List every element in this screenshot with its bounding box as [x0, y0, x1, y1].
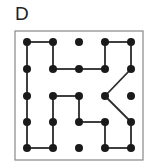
grid-dot — [75, 65, 83, 73]
grid-dot — [127, 118, 135, 126]
dot-grid-diagram — [0, 0, 148, 168]
grid-dot — [127, 65, 135, 73]
grid-dot — [101, 38, 109, 46]
grid-dot — [23, 38, 31, 46]
path-edge — [105, 96, 131, 122]
grid-dot — [75, 144, 83, 152]
grid-dot — [127, 38, 135, 46]
grid-dot — [23, 144, 31, 152]
grid-dot — [23, 118, 31, 126]
grid-dot — [49, 118, 57, 126]
grid-dot — [23, 92, 31, 100]
grid-dot — [75, 38, 83, 46]
grid-dot — [75, 118, 83, 126]
grid-dot — [101, 118, 109, 126]
grid-dot — [49, 92, 57, 100]
path-edge — [105, 69, 131, 96]
grid-dot — [101, 92, 109, 100]
grid-dot — [101, 65, 109, 73]
grid-dot — [49, 144, 57, 152]
grid-dot — [101, 144, 109, 152]
grid-dot — [127, 92, 135, 100]
grid-dot — [49, 65, 57, 73]
grid-dot — [23, 65, 31, 73]
grid-dot — [127, 144, 135, 152]
grid-dot — [75, 92, 83, 100]
grid-dot — [49, 38, 57, 46]
